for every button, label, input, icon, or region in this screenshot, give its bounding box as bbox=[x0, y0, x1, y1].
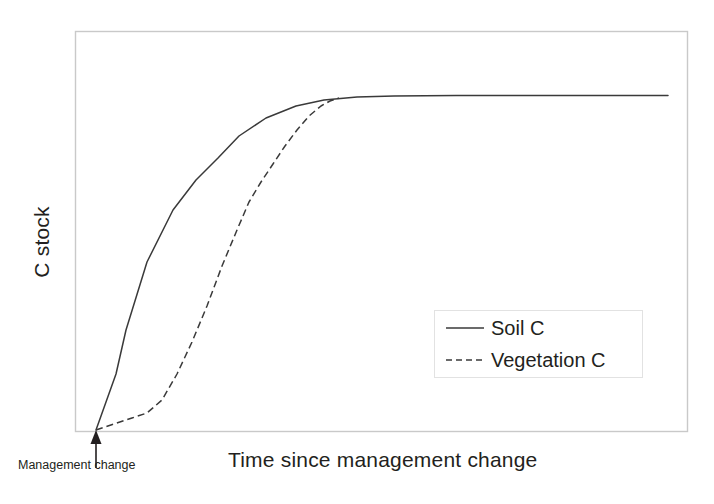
chart-canvas bbox=[0, 0, 714, 504]
legend-item-soil-c: Soil C bbox=[435, 311, 642, 345]
y-axis-label-wrap: C stock bbox=[0, 0, 70, 504]
legend-swatch-dashed-icon bbox=[443, 353, 487, 367]
legend-swatch-solid-icon bbox=[443, 321, 487, 335]
chart-figure: C stock Time since management change Man… bbox=[0, 0, 714, 504]
y-axis-label: C stock bbox=[30, 182, 54, 302]
legend-label-vegetation-c: Vegetation C bbox=[491, 349, 606, 372]
chart-legend: Soil C Vegetation C bbox=[434, 310, 643, 378]
management-change-annotation-label: Management change bbox=[18, 458, 135, 472]
legend-item-vegetation-c: Vegetation C bbox=[435, 343, 642, 377]
legend-label-soil-c: Soil C bbox=[491, 317, 544, 340]
x-axis-label: Time since management change bbox=[228, 448, 538, 472]
